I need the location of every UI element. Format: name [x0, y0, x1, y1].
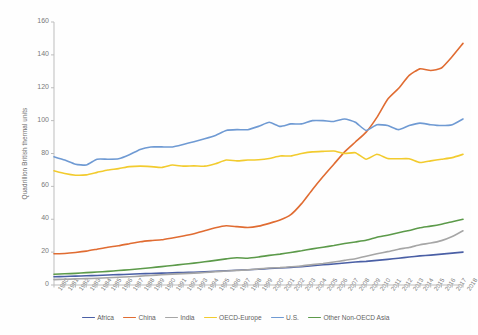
legend-label-u-s: U.S.: [286, 314, 299, 321]
legend-swatch-africa: [82, 317, 95, 319]
legend-item-oecd-europe[interactable]: OECD-Europe: [204, 314, 262, 321]
legend-label-china: China: [139, 314, 156, 321]
legend-swatch-china: [123, 317, 136, 319]
series-line-india: [54, 231, 463, 280]
series-line-china: [54, 43, 463, 253]
series-line-africa: [54, 252, 463, 277]
legend-label-africa: Africa: [97, 314, 114, 321]
legend-swatch-india: [165, 317, 178, 319]
series-line-oecd-europe: [54, 151, 463, 175]
legend-swatch-u-s: [271, 317, 284, 319]
legend-item-u-s[interactable]: U.S.: [271, 314, 299, 321]
legend-swatch-oecd-europe: [204, 317, 217, 319]
legend-label-other-non-oecd-asia: Other Non-OECD Asia: [323, 314, 389, 321]
legend-item-africa[interactable]: Africa: [82, 314, 114, 321]
legend-item-china[interactable]: China: [123, 314, 156, 321]
legend-item-india[interactable]: India: [165, 314, 195, 321]
legend-item-other-non-oecd-asia[interactable]: Other Non-OECD Asia: [308, 314, 389, 321]
legend-swatch-other-non-oecd-asia: [308, 317, 321, 319]
legend-label-india: India: [180, 314, 194, 321]
chart-legend: AfricaChinaIndiaOECD-EuropeU.S.Other Non…: [0, 314, 471, 321]
legend-label-oecd-europe: OECD-Europe: [219, 314, 262, 321]
